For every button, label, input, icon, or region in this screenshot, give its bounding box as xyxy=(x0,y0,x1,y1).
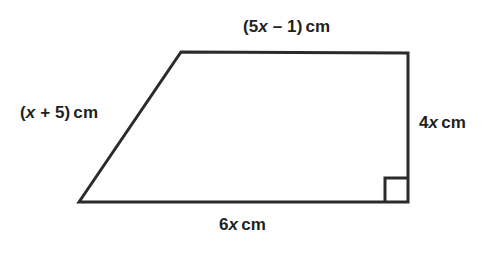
right-label-variable: x xyxy=(429,113,439,132)
top-label-unit: cm xyxy=(305,17,330,36)
left-edge-label: (x + 5)cm xyxy=(20,103,98,123)
left-label-unit: cm xyxy=(73,103,98,122)
left-label-suffix: + 5) xyxy=(35,103,70,122)
top-label-variable: x xyxy=(258,17,268,36)
bottom-edge-label: 6xcm xyxy=(219,215,266,235)
left-label-variable: x xyxy=(26,103,36,122)
geometry-figure: (5x – 1)cm (x + 5)cm 4xcm 6xcm xyxy=(0,0,482,253)
right-label-prefix: 4 xyxy=(419,113,429,132)
top-label-suffix: – 1) xyxy=(268,17,303,36)
bottom-label-prefix: 6 xyxy=(219,215,229,234)
bottom-label-unit: cm xyxy=(241,215,266,234)
bottom-label-variable: x xyxy=(229,215,239,234)
trapezium-outline xyxy=(79,52,408,202)
right-label-unit: cm xyxy=(441,113,466,132)
top-edge-label: (5x – 1)cm xyxy=(243,17,330,37)
right-edge-label: 4xcm xyxy=(419,113,466,133)
top-label-prefix: (5 xyxy=(243,17,258,36)
